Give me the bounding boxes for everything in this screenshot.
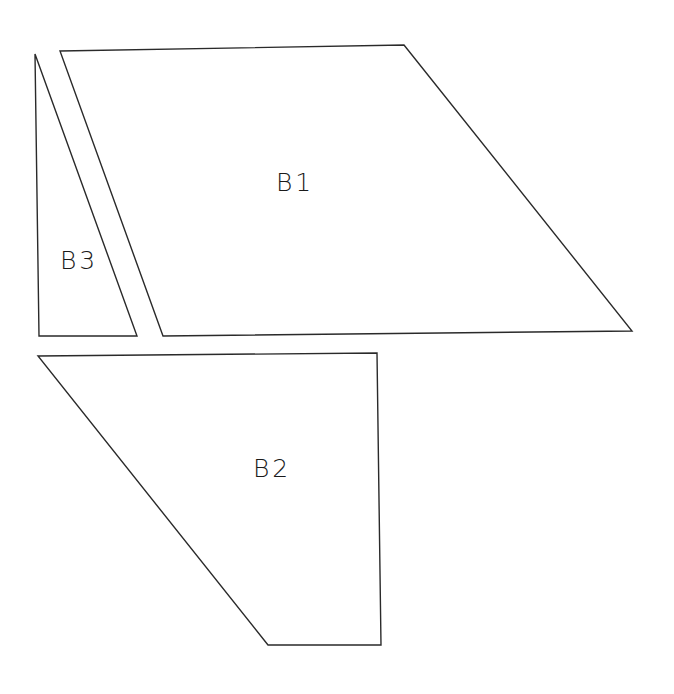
label-b2: B2	[253, 456, 291, 481]
shape-b1	[60, 45, 632, 336]
diagram-canvas	[0, 0, 674, 694]
label-b3: B3	[60, 248, 98, 273]
shape-b2	[38, 353, 381, 645]
label-b1: B1	[276, 170, 314, 195]
